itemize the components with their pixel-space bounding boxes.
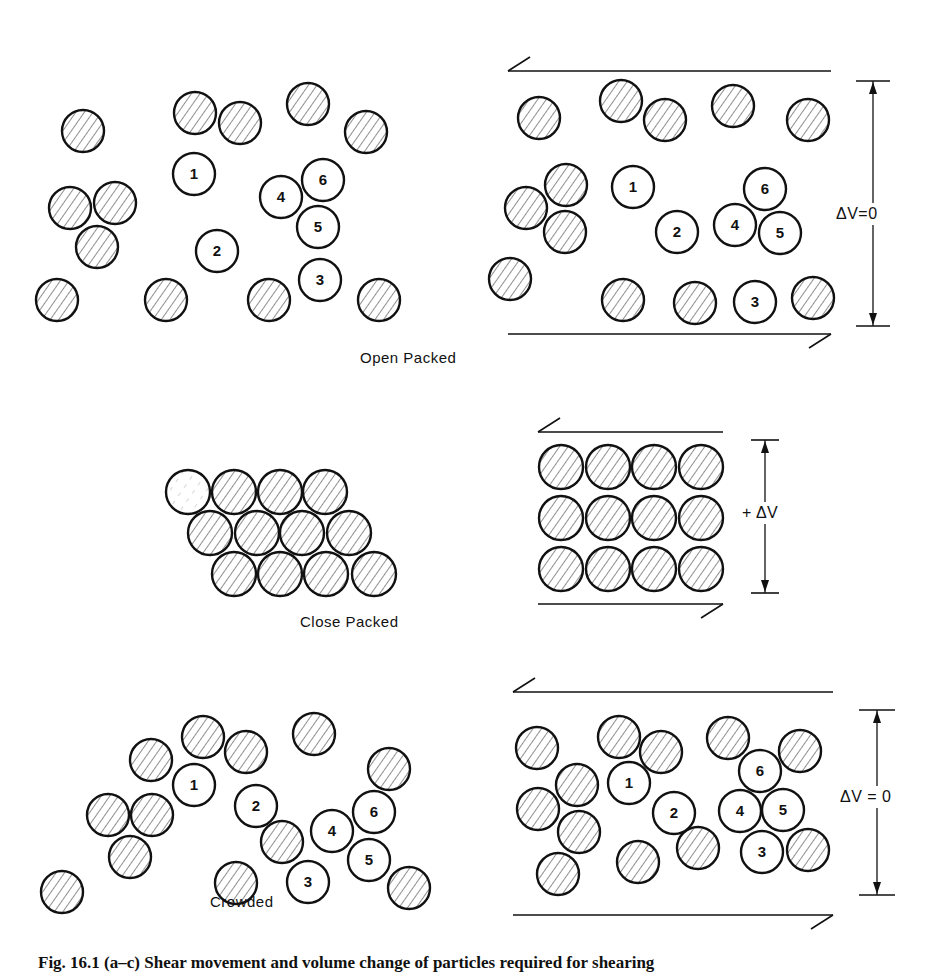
crowded-label: Crowded xyxy=(210,893,274,910)
hatched-particle xyxy=(293,713,335,755)
delta-v-close-label: + ΔV xyxy=(742,502,778,524)
hatched-particle xyxy=(679,547,723,591)
hatched-particle xyxy=(598,716,640,758)
hatched-particle xyxy=(258,470,302,514)
particle-number: 3 xyxy=(758,843,766,860)
hatched-particle xyxy=(76,226,118,268)
delta-v-open-label: ΔV=0 xyxy=(836,203,878,225)
hatched-particle xyxy=(235,511,279,555)
hatched-particle xyxy=(327,511,371,555)
hatched-particle xyxy=(145,279,187,321)
hatched-particle xyxy=(182,716,224,758)
hatched-particle xyxy=(489,258,531,300)
hatched-particle xyxy=(707,717,749,759)
hatched-particle xyxy=(544,211,586,253)
particle-number: 2 xyxy=(252,797,260,814)
figure-caption: Fig. 16.1 (a–c) Shear movement and volum… xyxy=(38,953,654,973)
hatched-particle xyxy=(188,511,232,555)
hatched-particle xyxy=(539,547,583,591)
particle-number: 4 xyxy=(731,216,740,233)
hatched-particle xyxy=(602,279,644,321)
particle-number: 1 xyxy=(190,165,198,182)
hatched-particle xyxy=(586,445,630,489)
open-packed-volume-dimension-arrow-down xyxy=(869,313,877,325)
hatched-particle xyxy=(679,445,723,489)
hatched-particle xyxy=(787,829,829,871)
hatched-particle xyxy=(674,282,716,324)
open-packed-shear-top-arrow-arrowhead xyxy=(508,57,530,71)
hatched-particle xyxy=(537,853,579,895)
hatched-particle xyxy=(632,445,676,489)
hatched-particle xyxy=(49,187,91,229)
open-packed-volume-dimension-arrow-up xyxy=(869,82,877,94)
particle-number: 3 xyxy=(304,873,312,890)
particle-number: 5 xyxy=(314,218,322,235)
crowded-volume-dimension-arrow-down xyxy=(873,882,881,894)
hatched-particle xyxy=(632,547,676,591)
hatched-particle xyxy=(258,552,302,596)
hatched-particle xyxy=(539,445,583,489)
hatched-particle xyxy=(41,871,83,913)
hatched-particle xyxy=(212,552,256,596)
hatched-particle xyxy=(248,279,290,321)
particle-number: 6 xyxy=(761,180,769,197)
hatched-particle xyxy=(556,764,598,806)
hatched-particle xyxy=(679,496,723,540)
crowded-volume-dimension-arrow-up xyxy=(873,711,881,723)
hatched-particle xyxy=(586,496,630,540)
open-packed-label: Open Packed xyxy=(360,349,456,366)
close-packed-volume-dimension-arrow-up xyxy=(761,441,769,453)
hatched-particle xyxy=(62,110,104,152)
particle-number: 3 xyxy=(316,271,324,288)
hatched-particle xyxy=(304,552,348,596)
hatched-particle xyxy=(219,102,261,144)
particle-number: 2 xyxy=(213,242,221,259)
particle-number: 3 xyxy=(751,293,759,310)
hatched-particle xyxy=(712,85,754,127)
hatched-particle xyxy=(517,788,559,830)
hatched-particle xyxy=(345,111,387,153)
hatched-particle xyxy=(505,187,547,229)
hatched-particle xyxy=(225,731,267,773)
hatched-particle xyxy=(212,470,256,514)
close-packed-shear-bottom-arrow-arrowhead xyxy=(701,604,723,618)
delta-v-crowded-label: ΔV = 0 xyxy=(840,786,892,808)
hatched-particle xyxy=(539,496,583,540)
hatched-particle xyxy=(640,731,682,773)
hatched-particle xyxy=(792,277,834,319)
particle-number: 6 xyxy=(319,171,327,188)
hatched-particle xyxy=(174,92,216,134)
hatched-particle xyxy=(558,811,600,853)
hatched-particle xyxy=(368,748,410,790)
hatched-particle xyxy=(600,80,642,122)
hatched-particle xyxy=(632,496,676,540)
hatched-particle xyxy=(677,827,719,869)
hatched-particle xyxy=(303,470,347,514)
hatched-particle xyxy=(358,279,400,321)
particle-number: 5 xyxy=(776,224,784,241)
hatched-particle xyxy=(94,182,136,224)
hatched-particle xyxy=(109,836,151,878)
hatched-particle xyxy=(352,552,396,596)
hatched-particle xyxy=(644,99,686,141)
open-packed-shear-bottom-arrow-arrowhead xyxy=(809,334,831,348)
particle-number: 5 xyxy=(365,851,373,868)
particle-number: 2 xyxy=(673,223,681,240)
close-packed-shear-top-arrow-arrowhead xyxy=(538,418,560,432)
particle-number: 4 xyxy=(328,822,337,839)
close-packed-label: Close Packed xyxy=(300,613,399,630)
hatched-particle xyxy=(130,739,172,781)
particle-number: 4 xyxy=(736,802,745,819)
particle-number: 6 xyxy=(756,762,764,779)
particle-number: 2 xyxy=(670,804,678,821)
particle-number: 1 xyxy=(629,178,637,195)
hatched-particle xyxy=(779,730,821,772)
hatched-particle xyxy=(36,279,78,321)
hatched-particle xyxy=(545,164,587,206)
particle-number: 1 xyxy=(625,774,633,791)
particle-number: 1 xyxy=(190,776,198,793)
hatched-particle xyxy=(131,794,173,836)
hatched-particle xyxy=(516,727,558,769)
hatched-particle xyxy=(518,97,560,139)
